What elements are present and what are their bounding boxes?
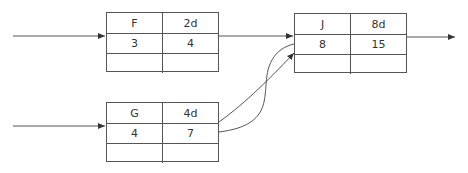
activity-name: G [107,103,162,123]
early-start: 3 [107,34,162,53]
late-finish [350,55,406,74]
activity-duration: 2d [162,13,218,33]
early-finish: 7 [162,124,218,143]
activity-node-j: J 8d 8 15 [294,13,407,73]
early-start: 4 [107,124,162,143]
early-start: 8 [295,35,350,54]
arrow-g-to-j-1 [219,53,294,122]
late-finish [162,144,218,163]
late-start [295,55,350,74]
activity-duration: 8d [350,14,406,34]
activity-node-f: F 2d 3 4 [106,12,219,72]
activity-node-g: G 4d 4 7 [106,102,219,162]
activity-duration: 4d [162,103,218,123]
early-finish: 15 [350,35,406,54]
late-start [107,144,162,163]
early-finish: 4 [162,34,218,53]
activity-name: F [107,13,162,33]
late-start [107,54,162,73]
activity-name: J [295,14,350,34]
late-finish [162,54,218,73]
